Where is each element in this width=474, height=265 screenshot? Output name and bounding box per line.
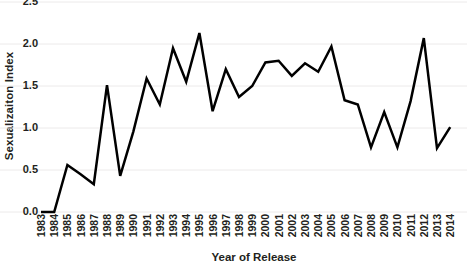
x-tick-label-1987: 1987	[89, 214, 100, 237]
x-tick-2000: 2000	[259, 214, 272, 250]
x-tick-2004: 2004	[312, 214, 325, 250]
x-tick-label-1999: 1999	[247, 214, 258, 237]
x-tick-1985: 1985	[61, 214, 74, 250]
x-tick-label-1992: 1992	[155, 214, 166, 237]
x-tick-label-1991: 1991	[141, 214, 152, 237]
x-tick-label-1983: 1983	[36, 214, 47, 237]
y-tick-label-0.5: 0.5	[16, 164, 38, 175]
x-tick-2010: 2010	[391, 214, 404, 250]
x-tick-label-2001: 2001	[273, 214, 284, 237]
x-tick-label-2005: 2005	[326, 214, 337, 237]
chart-figure: Sexualizaiton Index 19831984198519861987…	[0, 0, 474, 265]
x-tick-label-1985: 1985	[62, 214, 73, 237]
x-tick-1992: 1992	[153, 214, 166, 250]
x-tick-label-1993: 1993	[168, 214, 179, 237]
x-tick-label-2013: 2013	[432, 214, 443, 237]
x-tick-label-1996: 1996	[207, 214, 218, 237]
x-tick-label-1984: 1984	[49, 214, 60, 237]
x-tick-label-2014: 2014	[445, 214, 456, 237]
y-tick-label-1.5: 1.5	[16, 80, 38, 91]
x-tick-1984: 1984	[48, 214, 61, 250]
x-tick-2003: 2003	[298, 214, 311, 250]
x-tick-label-1995: 1995	[194, 214, 205, 237]
y-tick-label-2.0: 2.0	[16, 38, 38, 49]
x-tick-label-2010: 2010	[392, 214, 403, 237]
x-tick-label-1997: 1997	[221, 214, 232, 237]
x-tick-label-2000: 2000	[260, 214, 271, 237]
x-tick-2009: 2009	[378, 214, 391, 250]
x-tick-label-1988: 1988	[102, 214, 113, 237]
x-tick-2002: 2002	[285, 214, 298, 250]
y-tick-label-1.0: 1.0	[16, 122, 38, 133]
x-tick-label-1994: 1994	[181, 214, 192, 237]
y-axis-title-text: Sexualizaiton Index	[3, 52, 15, 161]
x-tick-1988: 1988	[100, 214, 113, 250]
y-tick-label-2.5: 2.5	[16, 0, 38, 7]
y-axis-title: Sexualizaiton Index	[0, 0, 18, 212]
x-tick-1998: 1998	[232, 214, 245, 250]
x-axis-tick-labels: 1983198419851986198719881989199019911992…	[41, 214, 467, 250]
x-tick-label-2007: 2007	[353, 214, 364, 237]
x-tick-label-1990: 1990	[128, 214, 139, 237]
x-tick-1993: 1993	[166, 214, 179, 250]
x-tick-label-1998: 1998	[234, 214, 245, 237]
x-tick-label-2009: 2009	[379, 214, 390, 237]
x-tick-2013: 2013	[430, 214, 443, 250]
x-tick-2006: 2006	[338, 214, 351, 250]
x-tick-1994: 1994	[180, 214, 193, 250]
x-tick-1999: 1999	[246, 214, 259, 250]
x-tick-1983: 1983	[34, 214, 47, 250]
chart-svg	[41, 0, 467, 214]
data-line-sexualization-index	[41, 33, 450, 212]
x-tick-2012: 2012	[417, 214, 430, 250]
x-tick-label-2012: 2012	[419, 214, 430, 237]
y-tick-label-0.0: 0.0	[16, 206, 38, 217]
x-tick-1995: 1995	[193, 214, 206, 250]
x-tick-2011: 2011	[404, 214, 417, 250]
x-tick-1997: 1997	[219, 214, 232, 250]
x-tick-2008: 2008	[364, 214, 377, 250]
x-tick-2001: 2001	[272, 214, 285, 250]
x-tick-label-2003: 2003	[300, 214, 311, 237]
x-tick-label-2008: 2008	[366, 214, 377, 237]
x-tick-2007: 2007	[351, 214, 364, 250]
x-tick-label-1986: 1986	[75, 214, 86, 237]
plot-area	[41, 0, 467, 214]
x-tick-label-2002: 2002	[287, 214, 298, 237]
x-axis-title: Year of Release	[41, 251, 467, 263]
x-tick-label-2004: 2004	[313, 214, 324, 237]
x-tick-1987: 1987	[87, 214, 100, 250]
gridlines	[0, 2, 467, 212]
x-tick-1996: 1996	[206, 214, 219, 250]
x-tick-2014: 2014	[444, 214, 457, 250]
x-tick-2005: 2005	[325, 214, 338, 250]
x-tick-label-2006: 2006	[339, 214, 350, 237]
x-tick-1990: 1990	[127, 214, 140, 250]
x-tick-label-1989: 1989	[115, 214, 126, 237]
x-tick-1986: 1986	[74, 214, 87, 250]
x-tick-1989: 1989	[114, 214, 127, 250]
x-tick-1991: 1991	[140, 214, 153, 250]
x-tick-label-2011: 2011	[405, 214, 416, 237]
